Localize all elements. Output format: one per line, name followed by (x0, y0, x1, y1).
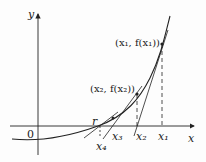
function-curve (12, 16, 170, 140)
x-axis-label: x (188, 133, 194, 144)
point-x3 (112, 117, 115, 120)
point-x1 (160, 42, 163, 45)
point-x2 (135, 92, 138, 95)
newton-method-diagram: y x 0 (x₁, f(x₁)) (x₂, f(x₂)) r x₁ x₂ x₃… (0, 0, 206, 162)
point-2-label: (x₂, f(x₂)) (90, 84, 135, 94)
origin-label: 0 (27, 129, 34, 140)
x1-label: x₁ (158, 131, 169, 142)
x4-label: x₄ (96, 141, 107, 152)
root-label: r (92, 116, 97, 127)
y-axis-label: y (28, 9, 34, 20)
x2-label: x₂ (136, 131, 147, 142)
point-1-label: (x₁, f(x₁)) (115, 38, 160, 48)
x3-label: x₃ (112, 131, 123, 142)
